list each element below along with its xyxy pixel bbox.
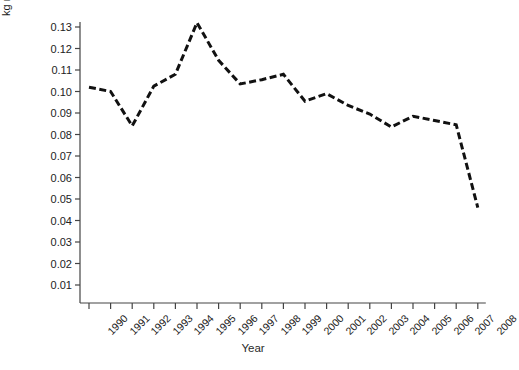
data-line — [89, 23, 478, 208]
axis-tick-marks — [75, 27, 478, 309]
data-series-group — [89, 23, 478, 208]
axis-spines — [80, 22, 486, 303]
